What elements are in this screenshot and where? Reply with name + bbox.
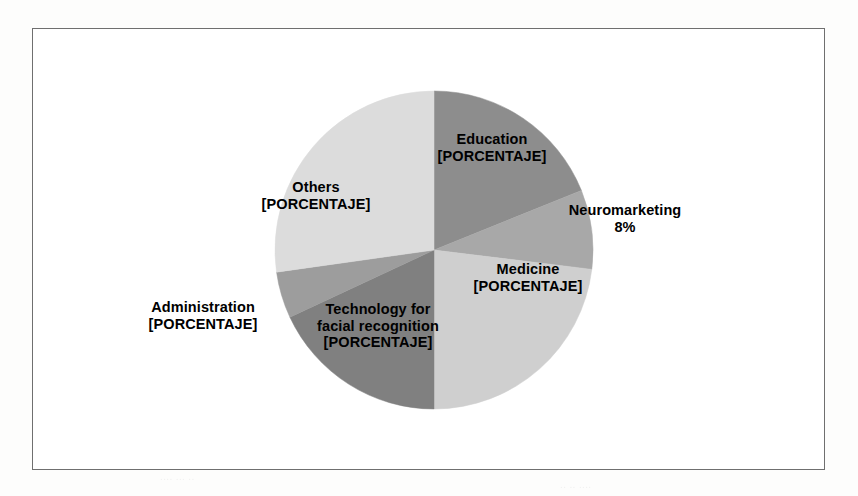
- pie-label-education: Education [PORCENTAJE]: [407, 131, 577, 164]
- pie-label-neuromarketing-name: Neuromarketing: [535, 202, 715, 219]
- chart-frame: Education [PORCENTAJE] Neuromarketing 8%…: [32, 28, 825, 470]
- pie-label-administration: Administration [PORCENTAJE]: [113, 299, 293, 332]
- pie-label-technology-for-facial-recognition: Technology for facial recognition [PORCE…: [283, 301, 473, 351]
- pie-svg: [33, 29, 826, 471]
- pie-chart: Education [PORCENTAJE] Neuromarketing 8%…: [33, 29, 826, 471]
- pie-label-technology-name-line2: facial recognition: [283, 318, 473, 335]
- pie-label-administration-name: Administration: [113, 299, 293, 316]
- pie-label-medicine-value: [PORCENTAJE]: [443, 278, 613, 295]
- pie-label-medicine-name: Medicine: [443, 261, 613, 278]
- pie-label-technology-value: [PORCENTAJE]: [283, 334, 473, 351]
- pie-label-technology-name-line1: Technology for: [283, 301, 473, 318]
- pie-label-others-name: Others: [231, 179, 401, 196]
- plot-area: Education [PORCENTAJE] Neuromarketing 8%…: [33, 29, 824, 469]
- pie-label-neuromarketing: Neuromarketing 8%: [535, 202, 715, 235]
- pie-label-education-name: Education: [407, 131, 577, 148]
- pie-label-others: Others [PORCENTAJE]: [231, 179, 401, 212]
- pie-label-neuromarketing-value: 8%: [535, 219, 715, 236]
- pie-label-education-value: [PORCENTAJE]: [407, 148, 577, 165]
- pie-label-medicine: Medicine [PORCENTAJE]: [443, 261, 613, 294]
- pie-label-others-value: [PORCENTAJE]: [231, 196, 401, 213]
- pie-label-administration-value: [PORCENTAJE]: [113, 316, 293, 333]
